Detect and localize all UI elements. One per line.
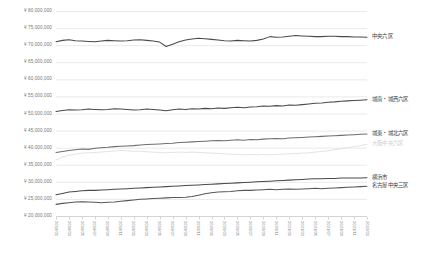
series-label-5: 名古屋中央三区 <box>372 183 408 188</box>
x-tick-label: 2020/09 <box>261 221 265 236</box>
y-tick-label: ¥ 40,000,000 <box>2 145 52 150</box>
y-tick-label: ¥ 80,000,000 <box>2 9 52 14</box>
x-tick-label: 2019/11 <box>196 221 200 236</box>
x-tick-label: 2021/01 <box>287 221 291 236</box>
y-tick-label: ¥ 35,000,000 <box>2 162 52 167</box>
y-tick-label: ¥ 65,000,000 <box>2 60 52 65</box>
x-tick-label: 2021/11 <box>352 221 356 236</box>
x-tick-label: 2018/11 <box>118 221 122 236</box>
series-label-1: 城南・城西六区 <box>372 97 408 102</box>
x-tick-label: 2021/03 <box>300 221 304 236</box>
x-tick-label: 2018/01 <box>54 221 58 236</box>
series-label-3: 大阪中央六区 <box>372 141 403 146</box>
x-tick-label: 2019/05 <box>157 221 161 236</box>
x-tick-label: 2021/09 <box>339 221 343 236</box>
x-tick-label: 2018/03 <box>66 221 70 236</box>
y-tick-label: ¥ 50,000,000 <box>2 111 52 116</box>
x-tick-label: 2019/03 <box>144 221 148 236</box>
x-tick-label: 2020/03 <box>222 221 226 236</box>
x-tick-label: 2020/07 <box>248 221 252 236</box>
x-tick-label: 2020/01 <box>209 221 213 236</box>
series-label-4: 横浜市 <box>372 175 388 180</box>
x-tick-label: 2018/07 <box>92 221 96 236</box>
x-tick-label: 2019/09 <box>183 221 187 236</box>
x-tick-label: 2018/09 <box>105 221 109 236</box>
x-tick-label: 2019/01 <box>131 221 135 236</box>
x-tick-label: 2021/05 <box>313 221 317 236</box>
series-label-0: 中央六区 <box>372 34 393 39</box>
x-tick-label: 2020/05 <box>235 221 239 236</box>
series-label-2: 城東・城北六区 <box>372 131 408 136</box>
y-tick-label: ¥ 25,000,000 <box>2 197 52 202</box>
x-tick-label: 2022/01 <box>365 221 369 236</box>
y-tick-label: ¥ 75,000,000 <box>2 26 52 31</box>
chart-container: ¥ 80,000,000¥ 75,000,000¥ 70,000,000¥ 65… <box>0 0 442 255</box>
y-tick-label: ¥ 55,000,000 <box>2 94 52 99</box>
x-tick-label: 2019/07 <box>170 221 174 236</box>
y-tick-label: ¥ 20,000,000 <box>2 214 52 219</box>
y-tick-label: ¥ 45,000,000 <box>2 128 52 133</box>
y-tick-label: ¥ 30,000,000 <box>2 180 52 185</box>
x-tick-label: 2021/07 <box>326 221 330 236</box>
x-axis-ticks <box>57 217 368 220</box>
x-tick-label: 2020/11 <box>274 221 278 236</box>
y-tick-label: ¥ 70,000,000 <box>2 43 52 48</box>
y-tick-label: ¥ 60,000,000 <box>2 77 52 82</box>
x-tick-label: 2018/05 <box>79 221 83 236</box>
